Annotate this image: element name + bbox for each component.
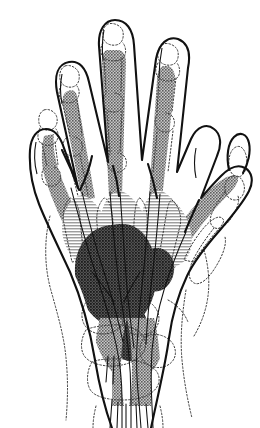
figure-root xyxy=(0,0,260,428)
hand-illustration xyxy=(0,0,260,428)
